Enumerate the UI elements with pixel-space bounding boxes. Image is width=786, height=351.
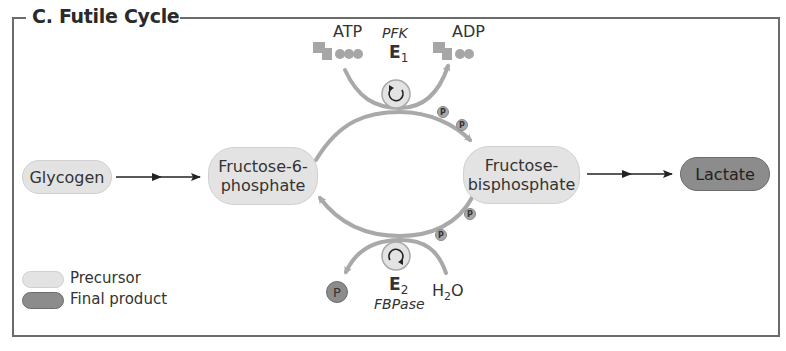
legend-swatch-final-product bbox=[22, 292, 64, 309]
node-label-line2: phosphate bbox=[221, 176, 306, 195]
node-label-line1: Fructose- bbox=[485, 156, 559, 175]
adp-label: ADP bbox=[452, 22, 485, 41]
enzyme-e2-label: E2 bbox=[389, 274, 408, 297]
adp-molecule-icon bbox=[433, 42, 474, 60]
phosphate-icon: P bbox=[435, 229, 447, 241]
phosphate-icon: P bbox=[437, 106, 449, 118]
enzyme-pfk-name: PFK bbox=[382, 25, 408, 41]
atp-molecule-icon bbox=[313, 42, 363, 60]
fbp-to-lactate-arrow bbox=[587, 170, 672, 178]
atp-label: ATP bbox=[333, 22, 362, 41]
node-fructose-6-phosphate: Fructose-6- phosphate bbox=[208, 147, 318, 205]
phosphate-icon: P bbox=[456, 119, 468, 131]
phosphate-icon: P bbox=[464, 208, 476, 220]
enzyme-e1-label: E1 bbox=[389, 42, 408, 65]
enzyme-fbpase-name: FBPase bbox=[374, 296, 425, 312]
legend-label-precursor: Precursor bbox=[70, 269, 141, 287]
legend-swatch-precursor bbox=[22, 271, 64, 288]
node-label-line2: bisphosphate bbox=[468, 175, 576, 194]
glycogen-to-f6p-arrow bbox=[116, 173, 200, 181]
node-lactate: Lactate bbox=[680, 157, 770, 191]
legend-label-final-product: Final product bbox=[70, 290, 167, 308]
enzyme-e1-circle bbox=[382, 80, 410, 108]
node-glycogen: Glycogen bbox=[22, 160, 112, 194]
node-fructose-bisphosphate: Fructose- bisphosphate bbox=[463, 146, 580, 204]
node-label-line1: Fructose-6- bbox=[218, 157, 308, 176]
enzyme-e2-circle bbox=[382, 242, 410, 270]
free-phosphate-icon: P bbox=[326, 281, 348, 303]
water-label: H2O bbox=[432, 281, 464, 303]
